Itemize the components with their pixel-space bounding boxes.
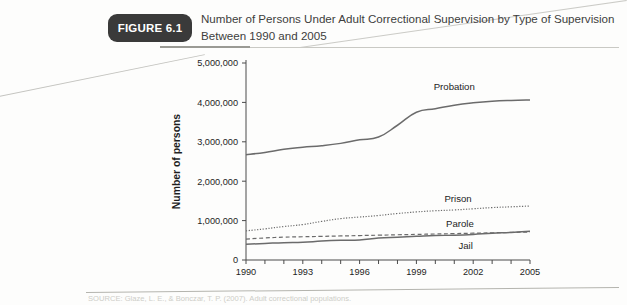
- y-axis-tick-label: 1,000,000: [197, 216, 238, 226]
- line-chart: Number of persons 01,000,0002,000,0003,0…: [0, 50, 619, 290]
- x-axis-tick-label: 2005: [520, 267, 540, 277]
- y-axis-title: Number of persons: [171, 114, 182, 209]
- source-note: SOURCE: Glaze, L. E., & Bonczar, T. P. (…: [88, 294, 508, 303]
- series-line-probation: [246, 100, 530, 155]
- figure-caption: Number of Persons Under Adult Correction…: [201, 11, 611, 45]
- chart-canvas: Number of persons 01,000,0002,000,0003,0…: [0, 50, 619, 290]
- y-axis-tick-label: 5,000,000: [197, 58, 238, 68]
- series-label-probation: Probation: [434, 81, 475, 92]
- figure-caption-line-1: Number of Persons Under Adult Correction…: [201, 11, 611, 28]
- y-axis-ticks-group: 01,000,0002,000,0003,000,0004,000,0005,0…: [197, 58, 246, 265]
- series-line-jail: [246, 231, 530, 244]
- badge-underline-rule: [160, 46, 250, 48]
- y-axis-tick-label: 0: [233, 255, 238, 265]
- y-axis-tick-label: 4,000,000: [197, 98, 238, 108]
- y-axis-title-group: Number of persons: [171, 114, 182, 209]
- figure-number-badge: FIGURE 6.1: [108, 14, 192, 42]
- x-axis-tick-label: 1999: [406, 267, 426, 277]
- x-axis-tick-label: 1990: [236, 267, 256, 277]
- series-lines-group: [246, 100, 530, 244]
- x-axis-tick-label: 1996: [349, 267, 369, 277]
- figure-number-label: FIGURE 6.1: [118, 22, 183, 34]
- figure-caption-line-2: Between 1990 and 2005: [201, 28, 611, 45]
- x-axis-ticks-group: 199019931996199920022005: [236, 260, 540, 277]
- x-axis-tick-label: 2002: [463, 267, 483, 277]
- series-label-jail: Jail: [458, 240, 472, 251]
- series-line-prison: [246, 206, 530, 231]
- y-axis-tick-label: 2,000,000: [197, 177, 238, 187]
- header-rule: [175, 47, 619, 48]
- axis-lines-group: [246, 60, 530, 260]
- y-axis-tick-label: 3,000,000: [197, 137, 238, 147]
- series-label-parole: Parole: [446, 218, 474, 229]
- series-label-prison: Prison: [444, 193, 471, 204]
- series-labels-group: ProbationPrisonParoleJail: [434, 81, 475, 251]
- x-axis-tick-label: 1993: [293, 267, 313, 277]
